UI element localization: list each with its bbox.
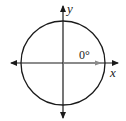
y-axis-label: y <box>65 1 73 16</box>
angle-label: 0° <box>79 48 90 62</box>
x-axis-label: x <box>109 65 116 80</box>
unit-circle-diagram: y x 0° <box>0 0 126 121</box>
